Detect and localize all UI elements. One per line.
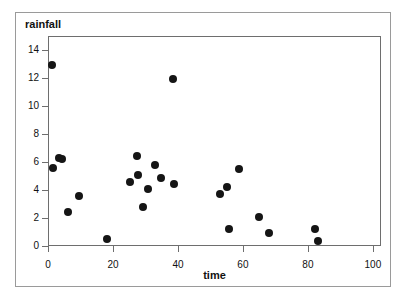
y-axis-tick-label-text: 10	[14, 101, 39, 111]
data-point	[133, 152, 141, 160]
data-point	[255, 213, 263, 221]
x-axis-tick	[373, 246, 374, 252]
y-axis-tick-label-text: 2	[14, 213, 39, 223]
data-points-layer	[48, 36, 381, 246]
data-point	[64, 208, 72, 216]
y-axis-tick-label: 6	[14, 157, 39, 167]
y-axis-tick-label-text: 6	[14, 157, 39, 167]
data-point	[169, 75, 177, 83]
y-axis-tick-label: 4	[14, 185, 39, 195]
data-point	[139, 203, 147, 211]
data-point	[49, 164, 57, 172]
data-point	[48, 61, 56, 69]
data-point	[225, 225, 233, 233]
y-axis-tick-label: 8	[14, 129, 39, 139]
x-axis-tick	[243, 246, 244, 252]
y-axis-tick-label: 2	[14, 213, 39, 223]
data-point	[134, 171, 142, 179]
data-point	[103, 235, 111, 243]
data-point	[144, 185, 152, 193]
data-point	[314, 237, 322, 245]
y-axis-label: rainfall	[25, 18, 61, 30]
y-axis-tick-label-text: 8	[14, 129, 39, 139]
data-point	[311, 225, 319, 233]
y-axis-tick-label-text: 0	[14, 241, 39, 251]
scatter-plot-figure: rainfall 02468101214 020406080100 time	[0, 0, 407, 301]
x-axis-label: time	[48, 269, 381, 281]
y-axis-tick-label-text: 4	[14, 185, 39, 195]
data-point	[265, 229, 273, 237]
x-axis-tick	[113, 246, 114, 252]
data-point	[126, 178, 134, 186]
y-axis-tick-label: 14	[14, 45, 39, 55]
data-point	[235, 165, 243, 173]
y-axis-tick-label-text: 14	[14, 45, 39, 55]
x-axis-tick	[178, 246, 179, 252]
data-point	[58, 155, 66, 163]
data-point	[151, 161, 159, 169]
y-axis-tick-label-text: 12	[14, 73, 39, 83]
y-axis-tick-label: 0	[14, 241, 39, 251]
y-axis-tick-label: 12	[14, 73, 39, 83]
y-axis-tick-label: 10	[14, 101, 39, 111]
data-point	[223, 183, 231, 191]
data-point	[157, 174, 165, 182]
data-point	[170, 180, 178, 188]
x-axis-tick	[48, 246, 49, 252]
data-point	[216, 190, 224, 198]
x-axis-tick	[308, 246, 309, 252]
data-point	[75, 192, 83, 200]
